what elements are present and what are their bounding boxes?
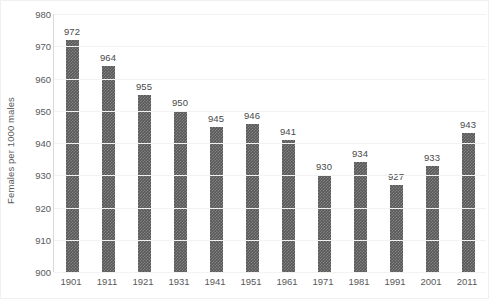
bar[interactable]: [390, 185, 403, 272]
bar[interactable]: [462, 133, 475, 272]
gridline: [54, 14, 486, 15]
gridline: [54, 46, 486, 47]
bar[interactable]: [246, 124, 259, 272]
bar-value-label: 964: [100, 52, 116, 63]
y-axis-tick-label: 970: [19, 41, 51, 52]
bar-value-label: 934: [352, 148, 368, 159]
bar[interactable]: [318, 175, 331, 272]
bar[interactable]: [426, 166, 439, 272]
bar-value-label: 941: [280, 126, 296, 137]
gridline: [54, 208, 486, 209]
gridline: [54, 111, 486, 112]
x-axis-tick-label: 1991: [377, 276, 413, 287]
gridline: [54, 79, 486, 80]
bar-value-label: 950: [172, 97, 188, 108]
y-axis-tick-label: 920: [19, 202, 51, 213]
y-axis-tick-label: 900: [19, 267, 51, 278]
x-axis-tick-label: 1961: [269, 276, 305, 287]
y-axis-tick-label: 930: [19, 170, 51, 181]
y-axis-tick-label: 980: [19, 9, 51, 20]
bar[interactable]: [210, 127, 223, 272]
gridline: [54, 175, 486, 176]
y-axis-tick-labels: 980970960950940930920910900: [19, 1, 51, 284]
x-axis-tick-label: 1971: [305, 276, 341, 287]
x-axis-tick-label: 1931: [161, 276, 197, 287]
bar-value-label: 930: [316, 161, 332, 172]
bar[interactable]: [174, 111, 187, 272]
x-axis-tick-label: 1911: [89, 276, 125, 287]
gridline: [54, 272, 486, 273]
gridline: [54, 143, 486, 144]
x-axis-tick-label: 1901: [53, 276, 89, 287]
bar-chart: Females per 1000 males 98097096095094093…: [0, 0, 489, 299]
bar[interactable]: [138, 95, 151, 272]
bar[interactable]: [102, 66, 115, 272]
x-axis-tick-label: 1921: [125, 276, 161, 287]
bar-value-label: 972: [64, 26, 80, 37]
x-axis-tick-label: 1941: [197, 276, 233, 287]
bar[interactable]: [282, 140, 295, 272]
bar-value-label: 943: [460, 119, 476, 130]
y-axis-title: Females per 1000 males: [1, 1, 19, 299]
x-axis-tick-label: 1951: [233, 276, 269, 287]
bar-value-label: 927: [388, 171, 404, 182]
y-axis-tick-label: 960: [19, 73, 51, 84]
gridline: [54, 240, 486, 241]
bar[interactable]: [354, 162, 367, 272]
bar[interactable]: [66, 40, 79, 272]
x-axis-tick-label: 2011: [449, 276, 485, 287]
x-axis-tick-label: 1981: [341, 276, 377, 287]
x-axis-tick-labels: 1901191119211931194119511961197119811991…: [53, 276, 485, 287]
bar-value-label: 945: [208, 113, 224, 124]
y-axis-tick-label: 950: [19, 105, 51, 116]
y-axis-tick-label: 910: [19, 234, 51, 245]
plot-area: 972964955950945946941930934927933943: [53, 14, 486, 272]
y-axis-tick-label: 940: [19, 138, 51, 149]
x-axis-tick-label: 2001: [413, 276, 449, 287]
bar-value-label: 933: [424, 152, 440, 163]
bar-value-label: 955: [136, 81, 152, 92]
